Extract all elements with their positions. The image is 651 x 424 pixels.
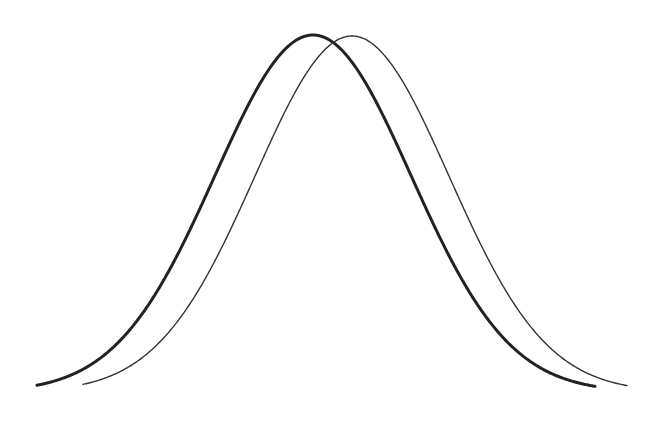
bell-curves-chart	[0, 0, 651, 424]
curve-distribution-a	[37, 35, 595, 386]
curve-distribution-b	[83, 36, 627, 386]
chart-canvas	[0, 0, 651, 424]
